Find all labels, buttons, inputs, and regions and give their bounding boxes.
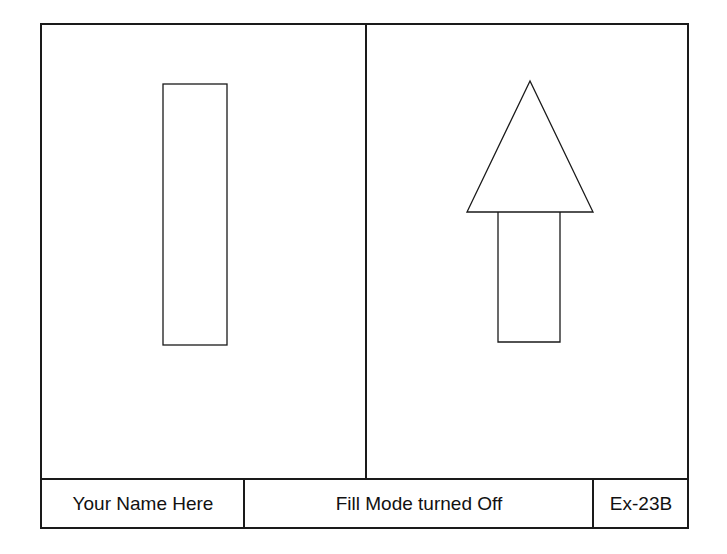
left-rectangle-shape[interactable] xyxy=(163,84,227,345)
description-cell: Fill Mode turned Off xyxy=(245,480,593,528)
arrow-stem-rectangle[interactable] xyxy=(498,212,560,342)
arrow-head-triangle[interactable] xyxy=(467,81,593,212)
name-cell: Your Name Here xyxy=(42,480,244,528)
drawing-canvas xyxy=(0,0,727,554)
outer-border xyxy=(41,24,688,528)
exercise-id-cell: Ex-23B xyxy=(594,480,688,528)
